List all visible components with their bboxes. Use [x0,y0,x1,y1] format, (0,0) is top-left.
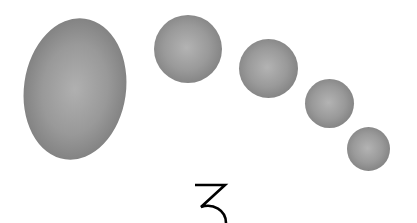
sphere-shape-1 [154,15,222,83]
sphere-shape-3 [305,79,354,128]
numeral-three-glyph [186,176,234,223]
figure-canvas: 3 [0,0,417,223]
sphere-shape-2 [239,39,298,98]
figure-label: 3 [186,176,234,223]
sphere-shape-4 [347,127,390,171]
large-ellipse-shape [15,12,136,167]
